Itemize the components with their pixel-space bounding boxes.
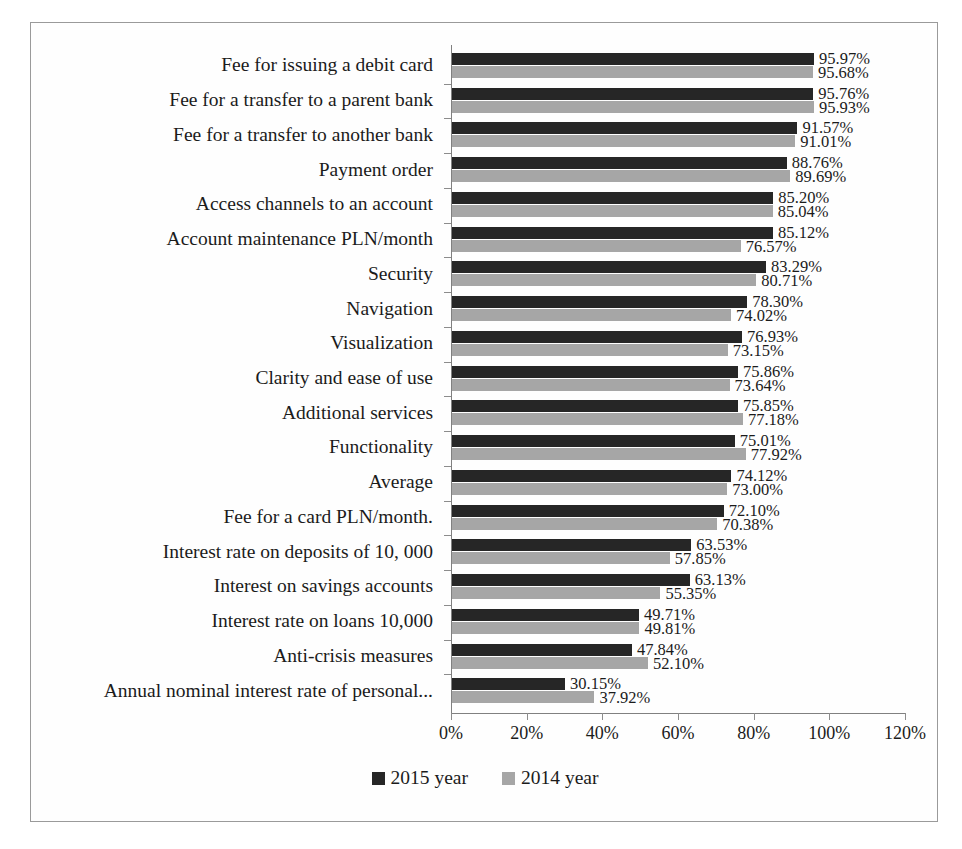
legend-swatch-icon [372,772,385,785]
bar-2014[interactable] [451,622,639,634]
value-tick-label: 60% [662,723,695,743]
bar-2015[interactable] [451,435,735,447]
category-tick [444,501,451,502]
category-label: Interest rate on deposits of 10, 000 [31,542,433,562]
bar-group: 63.53%57.85% [451,539,906,570]
category-label: Fee for a card PLN/month. [31,507,433,527]
category-tick [444,431,451,432]
bar-group: 95.97%95.68% [451,53,906,84]
bar-2015[interactable] [451,157,787,169]
category-label: Payment order [31,160,433,180]
value-tick-label: 20% [510,723,543,743]
category-axis-labels: Fee for issuing a debit cardFee for a tr… [39,49,441,709]
bar-group: 75.01%77.92% [451,435,906,466]
bar-value-2014: 70.38% [717,518,773,531]
category-tick [444,605,451,606]
bar-2015[interactable] [451,609,639,621]
category-label: Average [31,472,433,492]
bar-group: 78.30%74.02% [451,296,906,327]
category-tick [444,223,451,224]
bar-2014[interactable] [451,587,660,599]
bar-2014[interactable] [451,170,790,182]
bar-group: 75.85%77.18% [451,400,906,431]
bar-value-2014: 85.04% [773,205,829,218]
bar-2015[interactable] [451,261,766,273]
chart-legend: 2015 year2014 year [31,768,939,788]
legend-item[interactable]: 2014 year [502,768,598,788]
category-label: Interest on savings accounts [31,576,433,596]
category-tick [444,153,451,154]
bar-2014[interactable] [451,413,743,425]
value-tick-label: 120% [884,723,926,743]
category-tick [444,396,451,397]
bar-group: 49.71%49.81% [451,609,906,640]
bar-2014[interactable] [451,448,746,460]
bar-value-2014: 80.71% [756,274,812,287]
bar-2014[interactable] [451,379,730,391]
bar-2014[interactable] [451,205,773,217]
category-label: Anti-crisis measures [31,646,433,666]
bar-value-2014: 73.64% [730,379,786,392]
value-tick [678,713,679,720]
bar-2015[interactable] [451,505,724,517]
bar-2014[interactable] [451,483,727,495]
category-tick [444,257,451,258]
bar-2014[interactable] [451,101,814,113]
category-label: Fee for a transfer to a parent bank [31,90,433,110]
value-tick [754,713,755,720]
value-tick-label: 0% [439,723,463,743]
bar-group: 75.86%73.64% [451,366,906,397]
category-label: Additional services [31,403,433,423]
value-tick [451,713,452,720]
bar-value-2014: 95.93% [814,101,870,114]
bar-2014[interactable] [451,657,648,669]
bar-2015[interactable] [451,574,690,586]
bar-group: 83.29%80.71% [451,261,906,292]
legend-label: 2015 year [391,768,468,788]
bar-2015[interactable] [451,88,813,100]
bar-2014[interactable] [451,552,670,564]
bar-value-2014: 77.18% [743,413,799,426]
category-label: Navigation [31,299,433,319]
bar-2014[interactable] [451,274,756,286]
category-tick [444,362,451,363]
category-label: Access channels to an account [31,194,433,214]
category-tick [444,570,451,571]
category-tick [444,640,451,641]
bar-group: 76.93%73.15% [451,331,906,362]
bar-2014[interactable] [451,240,741,252]
bar-2015[interactable] [451,366,738,378]
bar-value-2014: 95.68% [813,66,869,79]
bar-2014[interactable] [451,691,594,703]
bar-2015[interactable] [451,53,814,65]
bar-2015[interactable] [451,678,565,690]
bar-2014[interactable] [451,309,731,321]
bar-value-2014: 74.02% [731,309,787,322]
bar-value-2014: 52.10% [648,657,704,670]
bar-2014[interactable] [451,518,717,530]
bar-2015[interactable] [451,331,742,343]
bar-2015[interactable] [451,192,773,204]
bar-2015[interactable] [451,122,797,134]
bar-2015[interactable] [451,296,747,308]
category-label: Visualization [31,333,433,353]
category-tick [444,674,451,675]
bar-value-2014: 55.35% [660,587,716,600]
bar-2015[interactable] [451,644,632,656]
legend-item[interactable]: 2015 year [372,768,468,788]
category-label: Annual nominal interest rate of personal… [31,681,433,701]
bar-value-2014: 37.92% [594,691,650,704]
category-tick [444,188,451,189]
bar-2015[interactable] [451,539,691,551]
bar-2015[interactable] [451,227,773,239]
category-tick [444,466,451,467]
bar-2014[interactable] [451,66,813,78]
bar-2014[interactable] [451,344,728,356]
bar-value-2014: 73.00% [727,483,783,496]
bar-2015[interactable] [451,400,738,412]
bar-2014[interactable] [451,135,795,147]
value-tick [829,713,830,720]
bar-value-2014: 57.85% [670,552,726,565]
bar-2015[interactable] [451,470,731,482]
value-tick-label: 100% [808,723,850,743]
